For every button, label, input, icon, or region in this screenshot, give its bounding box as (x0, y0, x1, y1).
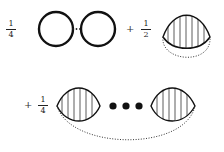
lens-outline (57, 88, 100, 121)
diagram-graphics (0, 0, 224, 152)
lens-chain-with-dotted-arc (57, 80, 195, 140)
lens-outline (151, 88, 195, 121)
solid-circle-loop (39, 12, 73, 46)
hatched-lens-with-dotted-arc (163, 0, 210, 60)
solid-circle-loop (81, 12, 115, 46)
dotted-arc (57, 106, 195, 140)
large-ellipsis-dots (109, 102, 142, 109)
small-ellipsis-dots (72, 28, 81, 30)
circle-chain (39, 12, 115, 46)
lens-outline (163, 15, 210, 48)
hatch-lines (168, 0, 204, 60)
dotted-arc (163, 37, 210, 57)
feynman-diagram-sum: 1 4 + 1 2 + 1 4 (0, 0, 224, 152)
